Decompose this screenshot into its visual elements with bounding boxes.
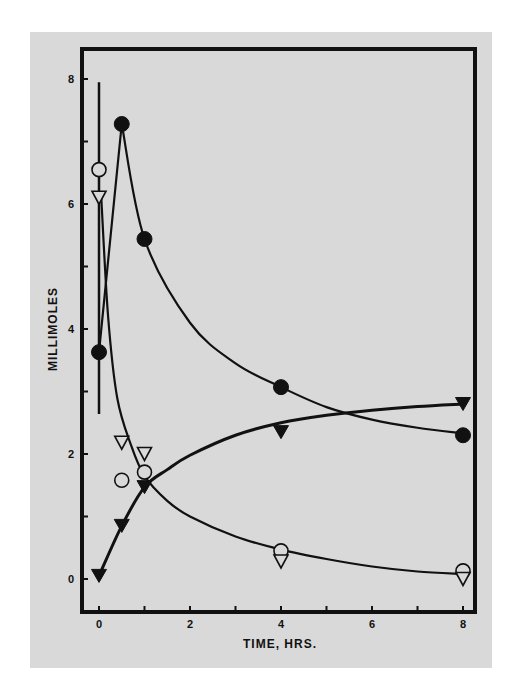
x-axis-title: TIME, HRS. (243, 637, 317, 651)
y-tick-label: 2 (68, 448, 74, 460)
x-tick-label: 0 (96, 618, 102, 630)
open-circle-point (92, 163, 106, 177)
filled-circle-point (137, 232, 152, 247)
x-tick-label: 2 (187, 618, 193, 630)
y-tick-label: 8 (68, 73, 74, 85)
open-circle-point (138, 465, 152, 479)
filled-circle-point (456, 428, 471, 443)
y-tick-label: 6 (68, 198, 74, 210)
y-axis-title: MILLIMOLES (46, 287, 60, 371)
x-tick-label: 6 (369, 618, 375, 630)
filled-circle-point (274, 380, 289, 395)
y-tick-label: 4 (68, 323, 75, 335)
y-tick-label: 0 (68, 573, 74, 585)
x-tick-label: 4 (278, 618, 285, 630)
chart-figure: 0246802468 TIME, HRS. MILLIMOLES (0, 0, 514, 697)
x-tick-label: 8 (460, 618, 466, 630)
open-circle-point (115, 473, 129, 487)
filled-circle-point (92, 345, 107, 360)
filled-circle-point (114, 117, 129, 132)
